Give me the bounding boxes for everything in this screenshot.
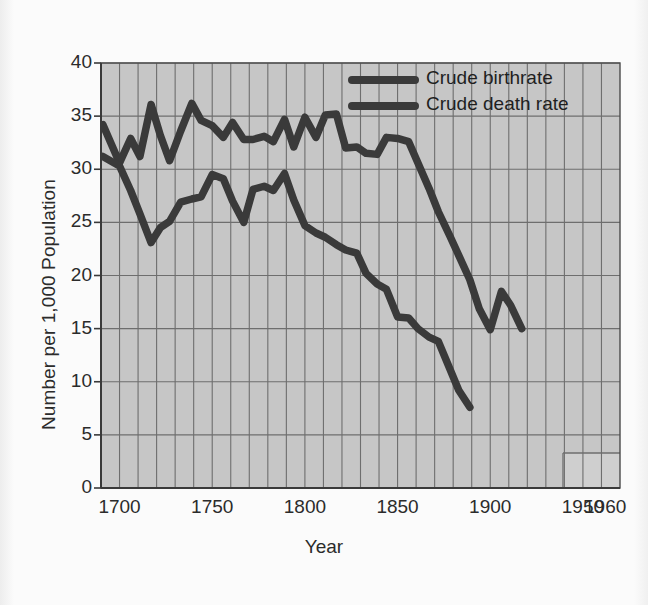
x-tick-label: 1700 [85, 496, 155, 518]
y-tick-label: 40 [48, 51, 92, 73]
figure-container: Number per 1,000 Population Year 4035302… [0, 0, 648, 605]
x-tick-label: 1750 [177, 496, 247, 518]
y-tick-label: 20 [48, 264, 92, 286]
x-tick-label: 1900 [455, 496, 525, 518]
y-tick-label: 5 [48, 423, 92, 445]
y-tick-label: 0 [48, 476, 92, 498]
x-tick-label: 1850 [363, 496, 433, 518]
x-tick-label: 1800 [270, 496, 340, 518]
y-tick-label: 10 [48, 370, 92, 392]
legend-label: Crude death rate [426, 93, 569, 115]
y-tick-label: 30 [48, 157, 92, 179]
y-tick-label: 25 [48, 210, 92, 232]
y-tick-label: 35 [48, 104, 92, 126]
x-tick-label: 1960 [570, 496, 640, 518]
y-tick-label: 15 [48, 317, 92, 339]
x-axis-title: Year [0, 536, 648, 558]
legend-label: Crude birthrate [426, 67, 553, 89]
